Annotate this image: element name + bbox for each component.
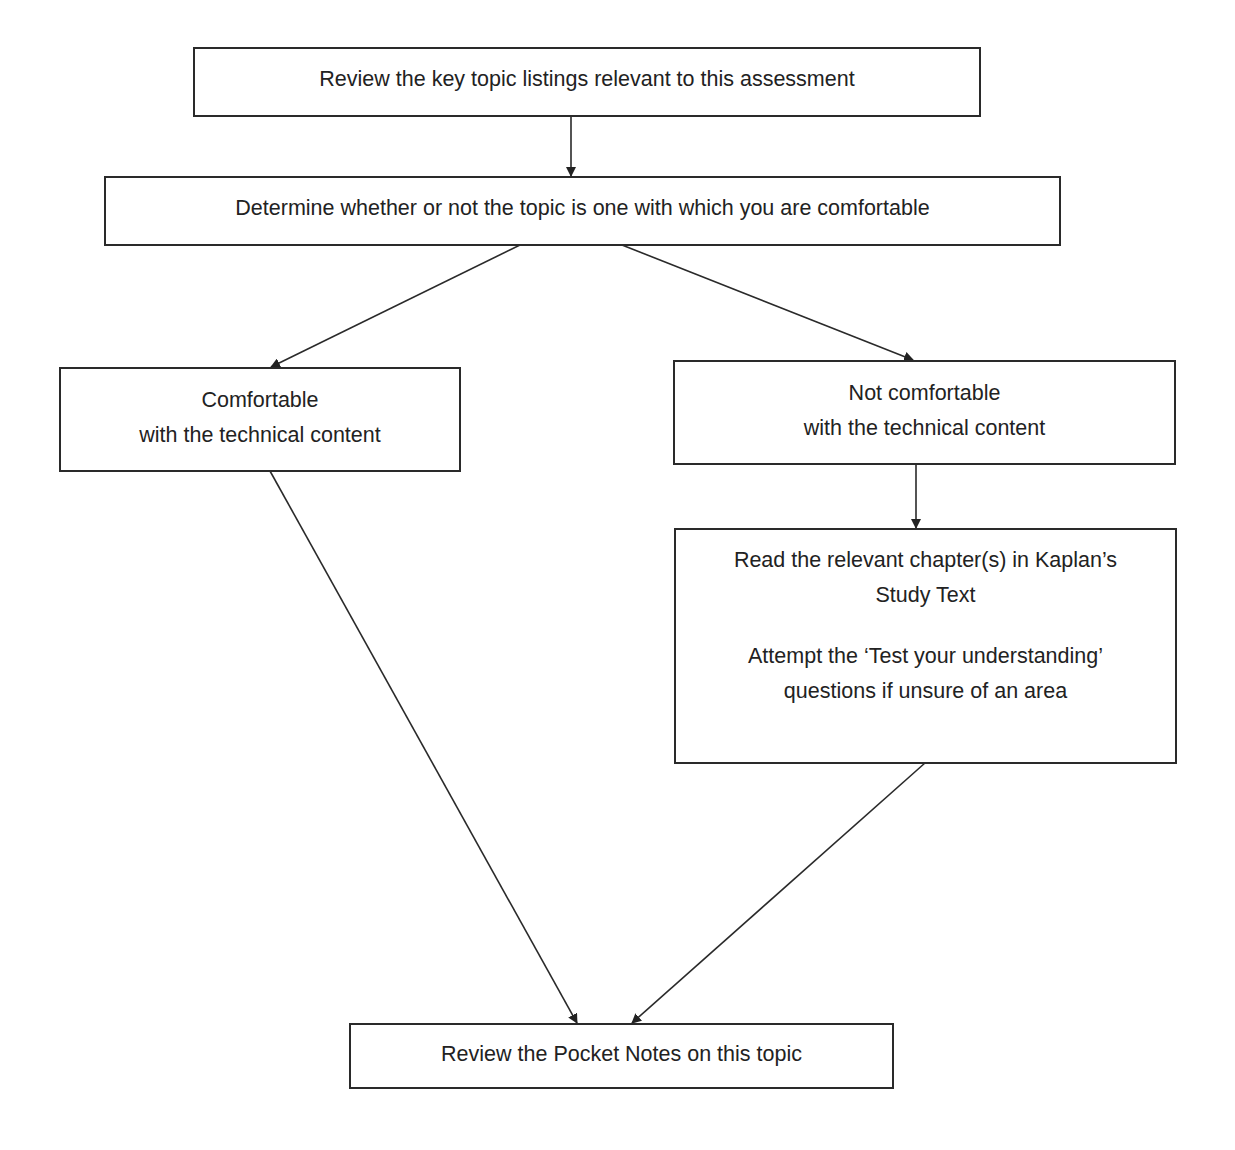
decision-topic-comfort: Determine whether or not the topic is on… xyxy=(104,176,1061,246)
node-text-line-4: questions if unsure of an area xyxy=(784,674,1067,709)
branch-comfortable: Comfortable with the technical content xyxy=(59,367,461,472)
node-text-line-3: Attempt the ‘Test your understanding’ xyxy=(748,639,1103,674)
branch-not-comfortable: Not comfortable with the technical conte… xyxy=(673,360,1176,465)
node-text-line-2: Study Text xyxy=(876,578,976,613)
node-text-line-1: Read the relevant chapter(s) in Kaplan’s xyxy=(734,543,1117,578)
node-text-line-2: with the technical content xyxy=(139,418,380,453)
step-review-pocket-notes: Review the Pocket Notes on this topic xyxy=(349,1023,894,1089)
arrow-n2-to-n4 xyxy=(622,245,913,360)
node-text: Determine whether or not the topic is on… xyxy=(235,191,929,226)
flowchart-canvas: Review the key topic listings relevant t… xyxy=(0,0,1235,1150)
node-text-line-2: with the technical content xyxy=(804,411,1045,446)
node-text: Review the key topic listings relevant t… xyxy=(319,62,854,97)
node-text-line-1: Comfortable xyxy=(201,383,318,418)
step-review-key-topic-listings: Review the key topic listings relevant t… xyxy=(193,47,981,117)
arrow-n3-to-n6 xyxy=(270,471,577,1023)
step-read-study-text: Read the relevant chapter(s) in Kaplan’s… xyxy=(674,528,1177,764)
arrow-n2-to-n3 xyxy=(271,245,520,367)
arrow-n5-to-n6 xyxy=(632,763,925,1023)
node-text: Review the Pocket Notes on this topic xyxy=(441,1037,802,1072)
node-text-line-1: Not comfortable xyxy=(849,376,1001,411)
